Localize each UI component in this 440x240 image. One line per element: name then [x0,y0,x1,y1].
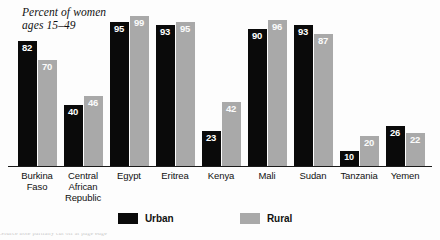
bar-value-label: 23 [202,133,221,143]
bar-rural: 99 [130,16,149,166]
bar-group: 1020 [340,14,379,166]
bar-group: 9096 [248,14,287,166]
bar-group: 4046 [64,14,103,166]
bar-urban: 82 [18,41,37,166]
chart-legend: Urban Rural [118,213,338,229]
bar-value-label: 26 [386,128,405,138]
bar-rural: 70 [38,60,57,166]
bar-value-label: 90 [248,31,267,41]
bar-rural: 20 [360,136,379,166]
bar-value-label: 93 [294,27,313,37]
bar-value-label: 40 [64,107,83,117]
legend-swatch-urban [118,213,138,224]
legend-item-urban: Urban [118,213,173,224]
axis-baseline [8,166,432,167]
bar-rural: 42 [222,102,241,166]
bar-group: 8270 [18,14,57,166]
bar-value-label: 82 [18,43,37,53]
legend-item-rural: Rural [240,213,292,224]
bar-group: 9387 [294,14,333,166]
bar-group: 9395 [156,14,195,166]
bar-value-label: 42 [222,104,241,114]
bar-value-label: 95 [176,24,195,34]
bar-value-label: 70 [38,62,57,72]
category-label: Yemen [378,170,433,181]
legend-swatch-rural [240,213,260,224]
category-axis-labels: Burkina FasoCentral African RepublicEgyp… [14,170,428,214]
bar-rural: 22 [406,133,425,166]
bar-group: 2342 [202,14,241,166]
bar-urban: 93 [156,25,175,166]
cut-off-footnote: Source note partially cut off at page ed… [0,233,440,240]
bar-rural: 46 [84,96,103,166]
bar-value-label: 99 [130,18,149,28]
bar-value-label: 46 [84,98,103,108]
bar-urban: 90 [248,29,267,166]
bar-rural: 96 [268,20,287,166]
bar-urban: 40 [64,105,83,166]
bar-group: 9599 [110,14,149,166]
bar-value-label: 87 [314,36,333,46]
chart-container: Percent of women ages 15–49 827040469599… [0,0,440,240]
plot-area: 827040469599939523429096938710202622 [14,14,428,166]
bar-value-label: 10 [340,152,359,162]
bar-urban: 23 [202,131,221,166]
legend-label-urban: Urban [145,213,173,224]
bar-value-label: 95 [110,24,129,34]
bar-urban: 95 [110,22,129,166]
bar-value-label: 20 [360,138,379,148]
bar-value-label: 93 [156,27,175,37]
bar-value-label: 22 [406,135,425,145]
bar-urban: 93 [294,25,313,166]
bar-urban: 26 [386,126,405,166]
bar-rural: 95 [176,22,195,166]
legend-label-rural: Rural [267,213,292,224]
bar-value-label: 96 [268,22,287,32]
bar-urban: 10 [340,151,359,166]
bar-rural: 87 [314,34,333,166]
bar-group: 2622 [386,14,425,166]
